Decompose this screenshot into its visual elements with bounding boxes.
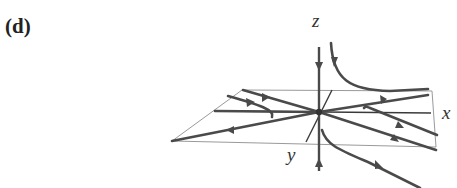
- arrow-icon: [331, 57, 338, 67]
- origin-point: [316, 109, 322, 115]
- trajectories: [172, 43, 437, 188]
- arrow-icon: [262, 93, 270, 102]
- arrow-icon: [246, 98, 255, 107]
- z-arrow-up-icon: [315, 158, 323, 167]
- arrow-icon: [226, 126, 234, 134]
- arrow-icon: [375, 160, 383, 169]
- phase-portrait-diagram: [0, 0, 457, 188]
- z-arrow-down-icon: [315, 62, 323, 71]
